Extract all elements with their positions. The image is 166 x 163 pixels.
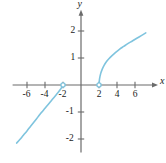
y-axis-label: y xyxy=(78,0,82,9)
y-tick-label--1: -1 xyxy=(66,107,74,117)
y-tick-label--2: -2 xyxy=(66,134,74,144)
graph-figure: -6-4-224621-1-2xy xyxy=(0,0,166,163)
open-circle-right xyxy=(97,83,101,87)
coordinate-plot xyxy=(0,0,166,163)
x-tick-label-6: 6 xyxy=(133,90,138,100)
x-tick-label--6: -6 xyxy=(23,90,31,100)
x-tick-label--2: -2 xyxy=(59,90,67,100)
x-axis-arrowhead xyxy=(152,83,158,88)
y-axis-arrowhead xyxy=(79,10,84,16)
y-tick-label-2: 2 xyxy=(70,26,75,36)
curve-right-branch xyxy=(99,33,146,85)
x-tick-label--4: -4 xyxy=(41,90,49,100)
y-tick-label-1: 1 xyxy=(70,53,75,63)
open-circle-left xyxy=(61,83,65,87)
x-tick-label-4: 4 xyxy=(115,90,120,100)
x-tick-label-2: 2 xyxy=(97,90,102,100)
x-axis-label: x xyxy=(160,76,164,86)
